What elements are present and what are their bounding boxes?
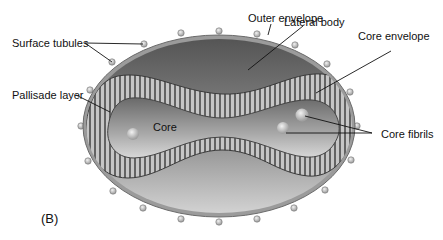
label-core-envelope: Core envelope [358,30,430,42]
core-fibril-left [127,128,139,140]
core-fibril-lower-right [277,122,289,134]
label-surface-tubules: Surface tubules [12,37,88,49]
virion-diagram: Outer envelope Lateral body Surface tubu… [0,0,443,240]
label-lateral-body: Lateral body [284,16,345,28]
label-core: Core [153,121,177,133]
label-core-fibrils: Core fibrils [381,128,434,140]
label-pallisade-layer: Pallisade layer [12,89,84,101]
panel-label: (B) [41,211,58,226]
core-fibril-upper-right [296,109,309,122]
